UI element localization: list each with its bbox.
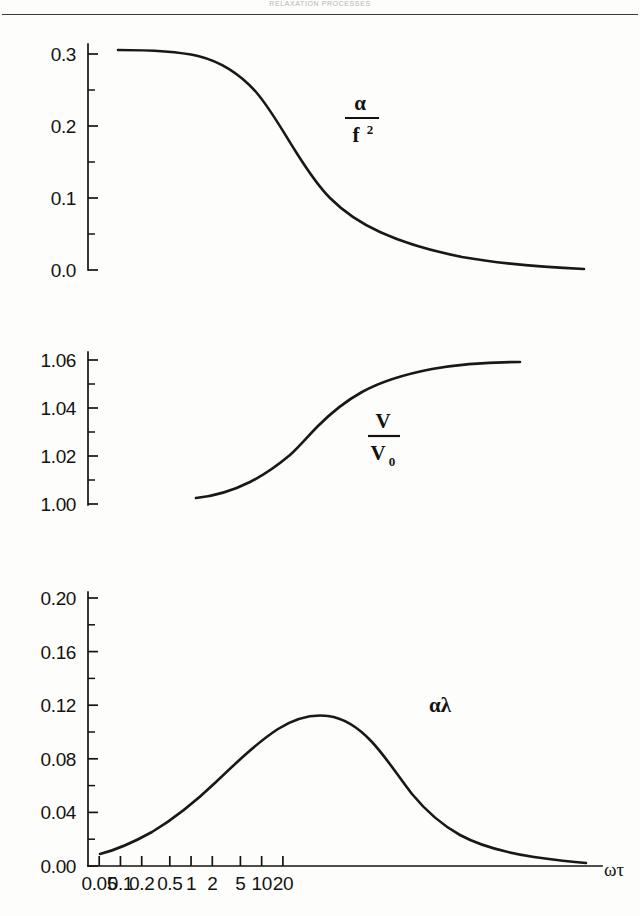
x-tick-label: 0.2: [129, 873, 154, 894]
panel3-svg: 0.200.160.120.080.040.00 0.050.10.20.512…: [0, 570, 640, 916]
y-tick-label: 1.04: [41, 398, 77, 419]
panel3-curve: [100, 716, 586, 863]
panel2-annotation: V V 0: [368, 409, 400, 469]
panel1-ytick-labels: 0.30.20.10.0: [51, 44, 76, 281]
panel2-svg: 1.061.041.021.00 V V 0: [0, 330, 640, 550]
y-tick-label: 0.20: [41, 588, 76, 609]
y-tick-label: 1.06: [41, 350, 76, 371]
x-tick-label: 2: [207, 873, 217, 894]
x-tick-label: 5: [235, 873, 245, 894]
panel1-curve: [118, 50, 584, 269]
y-tick-label: 0.16: [41, 642, 76, 663]
panel3-xtick-labels: 0.050.10.20.51251020: [82, 873, 294, 894]
panel1-annotation-exponent: 2: [367, 122, 374, 137]
panel1-svg: 0.30.20.10.0 α f 2: [0, 20, 640, 310]
panel2-ticks: [88, 360, 98, 504]
panel2-annotation-denominator: V: [370, 441, 385, 465]
panel3-ytick-labels: 0.200.160.120.080.040.00: [41, 588, 77, 877]
y-tick-label: 1.02: [41, 446, 76, 467]
panel2-ytick-labels: 1.061.041.021.00: [41, 350, 77, 515]
panel1-annotation-numerator: α: [354, 91, 366, 115]
x-tick-label: 10: [251, 873, 271, 894]
x-tick-label: 1: [186, 873, 196, 894]
panel-v-over-v0: 1.061.041.021.00 V V 0: [0, 330, 640, 550]
y-tick-label: 0.2: [51, 116, 76, 137]
panel2-curve: [196, 362, 520, 498]
panel1-ticks: [88, 54, 98, 270]
y-tick-label: 0.04: [41, 802, 77, 823]
y-tick-label: 0.08: [41, 749, 76, 770]
x-axis-title: ωτ: [604, 859, 625, 880]
x-tick-label: 0.5: [157, 873, 182, 894]
panel2-annotation-numerator: V: [375, 409, 390, 433]
y-tick-label: 0.00: [41, 856, 76, 877]
y-tick-label: 0.3: [51, 44, 76, 65]
x-tick-label: 20: [273, 873, 293, 894]
y-tick-label: 0.1: [51, 188, 76, 209]
y-tick-label: 0.0: [51, 260, 76, 281]
panel1-annotation-denominator: f: [353, 123, 361, 147]
y-tick-label: 1.00: [41, 494, 76, 515]
panel-alpha-over-f2: 0.30.20.10.0 α f 2: [0, 20, 640, 310]
panel-alpha-lambda: 0.200.160.120.080.040.00 0.050.10.20.512…: [0, 570, 640, 916]
panel1-annotation: α f 2: [345, 91, 379, 147]
panel2-annotation-subscript: 0: [389, 454, 396, 469]
running-head: RELAXATION PROCESSES: [0, 0, 640, 11]
y-tick-label: 0.12: [41, 695, 76, 716]
panel3-xticks: [99, 856, 283, 866]
figure-root: RELAXATION PROCESSES 0.30.20.10.0 α f 2: [0, 0, 640, 916]
panel3-annotation: αλ: [429, 693, 452, 717]
header-rule: [2, 14, 638, 15]
panel3-yticks: [88, 598, 98, 866]
